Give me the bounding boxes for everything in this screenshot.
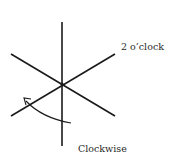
center-point bbox=[60, 82, 63, 85]
clock-direction-diagram bbox=[0, 0, 180, 166]
clockwise-arc bbox=[26, 101, 71, 123]
clockwise-label: Clockwise bbox=[78, 144, 127, 154]
two-oclock-label: 2 o’clock bbox=[121, 42, 164, 52]
